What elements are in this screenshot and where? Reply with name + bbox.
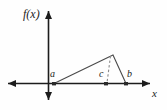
y-axis-down-arrow-icon: [45, 92, 52, 100]
point-marker-b: [124, 82, 128, 85]
x-axis-label: x: [152, 88, 157, 99]
point-label-a: a: [50, 69, 55, 79]
dashed-reference-line: [107, 56, 111, 83]
function-curve: [54, 55, 126, 84]
point-label-b: b: [127, 69, 132, 79]
x-axis-right-arrow-icon: [142, 80, 150, 87]
point-marker-a: [52, 82, 56, 85]
y-axis-label: f(x): [23, 8, 40, 20]
math-figure: f(x) x a c b: [0, 0, 167, 110]
point-marker-c: [104, 82, 108, 85]
x-axis-left-arrow-icon: [8, 80, 16, 87]
y-axis-up-arrow-icon: [45, 11, 52, 19]
point-label-c: c: [99, 69, 103, 79]
